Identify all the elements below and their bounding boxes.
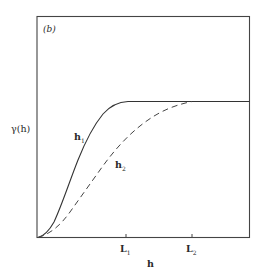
tick-label-L2: L2 (186, 244, 197, 256)
curve-label-h2: h2 (115, 160, 126, 172)
panel-label: (b) (43, 25, 56, 34)
tick-label-L1: L1 (120, 244, 131, 256)
x-axis-label: h (147, 259, 154, 269)
plot-frame (37, 17, 250, 238)
curve-label-h1: h1 (74, 132, 85, 144)
y-axis-label: γ(h) (11, 124, 30, 134)
variogram-plot (0, 0, 261, 270)
